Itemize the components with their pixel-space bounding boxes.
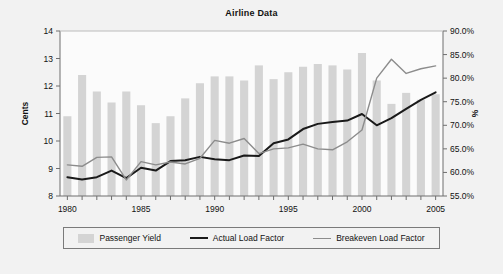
bar-1995 [284,72,292,196]
bar-1987 [166,116,174,196]
svg-text:Cents: Cents [20,101,30,125]
legend-label-passenger-yield: Passenger Yield [99,233,160,243]
svg-text:70.0%: 70.0% [450,120,475,130]
legend-label-actual-load-factor: Actual Load Factor [213,233,284,243]
chart-legend: Passenger Yield Actual Load Factor Break… [63,227,440,249]
line-swatch-grey-icon [313,238,331,239]
svg-text:10: 10 [44,136,54,146]
bar-1989 [196,83,204,196]
bar-1983 [108,103,116,197]
svg-text:1985: 1985 [132,204,151,214]
bar-1994 [270,79,278,196]
bar-1982 [93,92,101,197]
bar-2000 [358,53,366,196]
bar-1991 [225,76,233,196]
legend-item-passenger-yield: Passenger Yield [78,233,160,243]
bar-1999 [343,70,351,197]
bar-1990 [211,76,219,196]
svg-text:12: 12 [44,81,54,91]
bar-1988 [181,98,189,196]
svg-text:11: 11 [44,109,53,119]
legend-item-breakeven-load-factor: Breakeven Load Factor [313,233,424,243]
bar-1997 [314,64,322,196]
bar-1980 [63,116,71,196]
bar-1998 [328,65,336,196]
svg-text:1990: 1990 [205,204,224,214]
svg-text:13: 13 [44,54,54,64]
bar-2004 [417,100,425,196]
svg-text:65.0%: 65.0% [450,144,475,154]
bar-1981 [78,75,86,196]
bar-1985 [137,105,145,196]
airline-data-chart: Airline Data 89101112131455.0%60.0%65.0%… [0,0,503,274]
svg-text:2005: 2005 [426,204,445,214]
legend-item-actual-load-factor: Actual Load Factor [190,233,284,243]
svg-text:1995: 1995 [279,204,298,214]
svg-text:9: 9 [48,164,53,174]
svg-text:55.0%: 55.0% [450,191,475,201]
svg-text:60.0%: 60.0% [450,167,475,177]
svg-text:75.0%: 75.0% [450,97,475,107]
svg-text:2000: 2000 [353,204,372,214]
line-swatch-black-icon [190,237,208,239]
legend-label-breakeven-load-factor: Breakeven Load Factor [336,233,424,243]
svg-text:90.0%: 90.0% [450,26,475,36]
bar-1993 [255,65,263,196]
svg-text:8: 8 [48,191,53,201]
svg-text:14: 14 [44,26,54,36]
bar-swatch-icon [78,234,94,243]
svg-text:85.0%: 85.0% [450,50,475,60]
svg-text:1980: 1980 [58,204,77,214]
bar-1986 [152,123,160,196]
bar-2005 [432,94,440,196]
svg-text:%: % [470,109,480,117]
svg-text:80.0%: 80.0% [450,73,475,83]
bar-2001 [373,81,381,197]
